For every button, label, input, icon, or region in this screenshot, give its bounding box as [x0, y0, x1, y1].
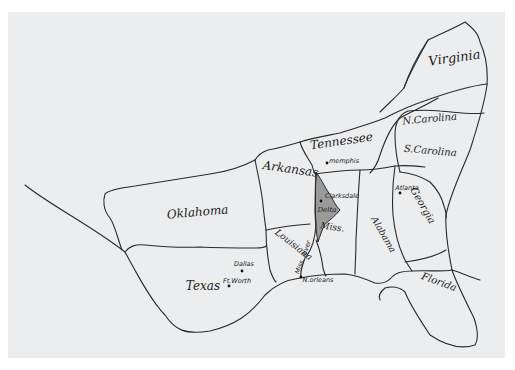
state-label-miss: Miss.	[319, 220, 345, 233]
border-la-tx	[266, 230, 276, 282]
border-al-ga	[393, 166, 412, 271]
city-label-new-orleans: N.orleans	[303, 276, 334, 284]
city-label-ft-worth: Ft.Worth	[223, 277, 251, 285]
city-label-atlanta: Atlanta	[394, 184, 418, 192]
city-label-dallas: Dallas	[234, 260, 255, 268]
state-label-virginia: Virginia	[427, 46, 481, 68]
state-label-s-carolina: S.Carolina	[403, 143, 457, 159]
border-ok-tx	[125, 245, 266, 252]
state-label-tennessee: Tennessee	[309, 130, 374, 153]
border-ms-south	[316, 240, 326, 276]
region-label-delta: Delta	[317, 206, 337, 214]
border-ga-fl	[405, 250, 446, 262]
city-dot-clarksdale	[320, 200, 323, 203]
outline-west-coast	[25, 185, 300, 332]
border-ms-al	[355, 170, 360, 274]
state-label-oklahoma: Oklahoma	[166, 202, 229, 221]
hand-drawn-map: VirginiaTennesseeN.CarolinaS.CarolinaArk…	[0, 0, 515, 370]
city-label-clarksdale: Clarksdale	[325, 192, 359, 200]
state-label-texas: Texas	[186, 279, 220, 293]
state-label-arkansas: Arkansas	[261, 158, 319, 180]
city-dot-ft-worth	[228, 285, 231, 288]
border-ok-north	[104, 160, 255, 250]
city-dot-dallas	[241, 270, 244, 273]
border-tn-north	[255, 142, 300, 160]
city-label-memphis: memphis	[329, 157, 360, 165]
city-dot-atlanta	[399, 192, 402, 195]
state-label-florida: Florida	[419, 270, 458, 293]
border-ar-la	[266, 224, 310, 230]
